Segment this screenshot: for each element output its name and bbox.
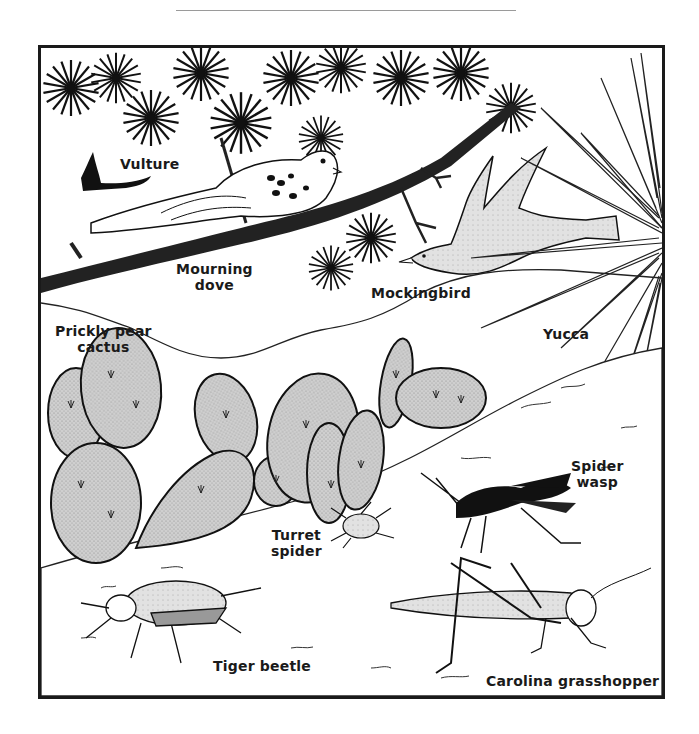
label-prickly-pear-cactus: Prickly pear cactus: [55, 323, 152, 355]
label-turret-spider: Turret spider: [271, 527, 322, 559]
label-mockingbird: Mockingbird: [371, 285, 471, 301]
label-carolina-grasshopper: Carolina grasshopper: [486, 673, 659, 689]
label-prickly-pear-line2: cactus: [55, 339, 152, 355]
illustration-frame: Vulture Mourning dove Mockingbird Prickl…: [38, 45, 665, 699]
label-mourning-dove: Mourning dove: [176, 261, 253, 293]
label-spider-wasp-line2: wasp: [571, 474, 624, 490]
label-mourning-dove-line2: dove: [176, 277, 253, 293]
label-turret-spider-line2: spider: [271, 543, 322, 559]
label-tiger-beetle: Tiger beetle: [213, 658, 311, 674]
top-divider-rule: [176, 10, 516, 11]
label-yucca: Yucca: [543, 326, 589, 342]
label-mourning-dove-line1: Mourning: [176, 261, 253, 277]
label-spider-wasp: Spider wasp: [571, 458, 624, 490]
habitat-scene: [41, 48, 662, 696]
label-prickly-pear-line1: Prickly pear: [55, 323, 152, 339]
label-turret-spider-line1: Turret: [271, 527, 322, 543]
label-vulture: Vulture: [120, 156, 180, 172]
label-spider-wasp-line1: Spider: [571, 458, 624, 474]
